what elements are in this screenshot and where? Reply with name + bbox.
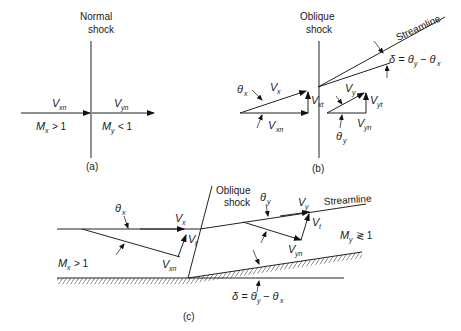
svg-text:y: y xyxy=(304,203,309,211)
vy-label-b: V y xyxy=(345,82,356,97)
svg-text:− θ: − θ xyxy=(263,290,278,302)
shock-wave-diagram: Normal shock V xn V yn M x > 1 M y < 1 (… xyxy=(0,0,461,331)
vy-vector xyxy=(327,93,364,113)
svg-text:x: x xyxy=(243,90,248,97)
normal-shock-label-line2: shock xyxy=(88,24,115,35)
vyn-label: V yn xyxy=(114,97,129,112)
svg-text:y: y xyxy=(266,198,271,206)
wall-surface xyxy=(57,252,362,278)
oblique-shock-label-line2: shock xyxy=(306,24,333,35)
vy-vector-c xyxy=(280,212,309,216)
vt-label-c-upstream: V t xyxy=(188,233,198,247)
vyn-label-c: V yn xyxy=(288,243,303,258)
oblique-shock-line-c xyxy=(188,186,212,278)
wall-hatching xyxy=(57,252,362,284)
streamline-label-b: Streamline xyxy=(394,12,442,42)
theta-y-arrow-c-bottom xyxy=(261,232,266,243)
vxt-label-b: V xt xyxy=(311,94,325,108)
svg-text:< 1: < 1 xyxy=(118,121,133,132)
caption-c: (c) xyxy=(183,311,195,322)
theta-y-label-c: θ y xyxy=(260,191,271,206)
svg-text:x: x xyxy=(66,264,71,271)
vyn-label-b: V yn xyxy=(357,117,372,132)
vxn-label: V xn xyxy=(52,97,67,111)
theta-x-arrow-top xyxy=(252,90,262,100)
oblique-shock-label-c-line1: Oblique xyxy=(216,185,251,196)
svg-text:xn: xn xyxy=(168,265,177,272)
svg-text:y: y xyxy=(342,137,347,145)
svg-text:y: y xyxy=(110,127,115,135)
vx-label-c: V x xyxy=(175,212,186,226)
svg-text:x: x xyxy=(276,88,281,95)
theta-y-arrow-top xyxy=(336,96,342,104)
svg-text:xn: xn xyxy=(58,104,67,111)
mx-gt-1-label: M x > 1 xyxy=(36,120,67,134)
svg-text:δ = θ: δ = θ xyxy=(232,290,257,302)
svg-text:θ: θ xyxy=(260,191,266,203)
vt-label-c-downstream: V t xyxy=(312,216,322,230)
delta-equation-c: δ = θ y − θ x xyxy=(232,290,284,305)
theta-x-label-c: θ x xyxy=(115,202,126,216)
svg-text:θ: θ xyxy=(237,83,243,95)
svg-text:− θ: − θ xyxy=(420,53,435,65)
theta-y-arrow-bottom xyxy=(340,115,342,128)
svg-text:t: t xyxy=(319,223,322,230)
svg-text:θ: θ xyxy=(115,202,121,214)
svg-text:yt: yt xyxy=(376,101,384,109)
oblique-shock-label-c-line2: shock xyxy=(224,197,251,208)
caption-b: (b) xyxy=(312,163,324,174)
caption-a: (a) xyxy=(86,161,98,172)
vxn-label-c: V xn xyxy=(162,258,177,272)
svg-text:≷ 1: ≷ 1 xyxy=(356,230,373,241)
mx-gt-1-label-c: M x > 1 xyxy=(58,257,89,271)
svg-text:δ = θ: δ = θ xyxy=(389,53,414,65)
theta-x-arrow-bottom xyxy=(257,115,262,128)
panel-b-oblique-shock-vectors: Oblique shock Streamline δ = θ y − θ x θ… xyxy=(237,11,445,174)
vxn-label-b: V xn xyxy=(268,119,284,133)
vt-vector-c-downstream xyxy=(301,214,309,240)
svg-text:yn: yn xyxy=(363,124,372,132)
delta-arrow-c-top xyxy=(253,250,259,264)
svg-text:x: x xyxy=(436,60,441,67)
delta-arrow-top xyxy=(374,41,383,53)
vx-vector xyxy=(240,91,306,113)
svg-text:x: x xyxy=(121,209,126,216)
svg-text:xt: xt xyxy=(317,101,325,108)
vt-vector-c-upstream xyxy=(178,235,186,257)
svg-text:θ: θ xyxy=(336,130,342,142)
panel-a-normal-shock: Normal shock V xn V yn M x > 1 M y < 1 (… xyxy=(21,11,154,172)
theta-y-label-b: θ y xyxy=(336,130,347,145)
vyt-label-b: V yt xyxy=(370,94,384,109)
vx-label-b: V x xyxy=(270,81,281,95)
svg-text:xn: xn xyxy=(275,126,284,133)
theta-x-label-b: θ x xyxy=(237,83,248,97)
vy-label-c: V y xyxy=(298,196,309,211)
delta-equation-b: δ = θ y − θ x xyxy=(389,53,441,68)
svg-text:y: y xyxy=(256,297,261,305)
svg-text:y: y xyxy=(348,236,353,244)
svg-text:y: y xyxy=(351,89,356,97)
panel-c-wedge-flow: Oblique shock θ x V x V t V xn M x > 1 xyxy=(57,185,373,322)
svg-text:y: y xyxy=(413,60,418,68)
vyn-vector-c xyxy=(243,222,301,240)
svg-text:yn: yn xyxy=(294,250,303,258)
delta-arrow-c-bottom xyxy=(257,281,259,292)
theta-y-arrow-c-top xyxy=(266,204,268,216)
my-label-c: M y ≷ 1 xyxy=(340,229,373,244)
vxn-vector-c xyxy=(82,229,180,257)
svg-text:> 1: > 1 xyxy=(74,258,89,269)
svg-text:x: x xyxy=(181,219,186,226)
theta-x-arrow-c-bottom xyxy=(116,244,124,255)
svg-text:> 1: > 1 xyxy=(52,121,67,132)
normal-shock-label-line1: Normal xyxy=(80,11,112,22)
svg-text:x: x xyxy=(279,297,284,304)
oblique-shock-label-line1: Oblique xyxy=(300,11,335,22)
svg-text:x: x xyxy=(44,127,49,134)
svg-text:yn: yn xyxy=(120,104,129,112)
streamline-label-c: Streamline xyxy=(323,193,372,207)
theta-x-arrow-c-top xyxy=(124,216,128,228)
my-lt-1-label: M y < 1 xyxy=(102,120,133,135)
